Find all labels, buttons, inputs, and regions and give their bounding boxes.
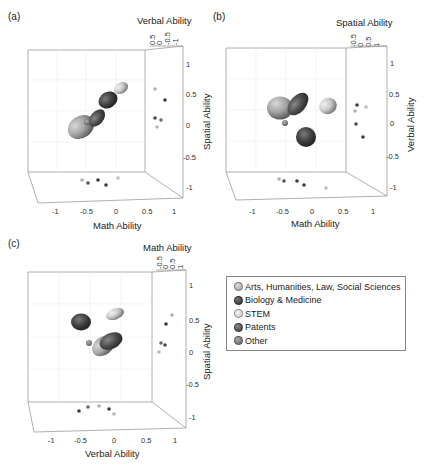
svg-text:0.5: 0.5 <box>389 90 399 99</box>
panel-label: (c) <box>8 238 20 249</box>
legend-item-patents: Patents <box>234 321 405 335</box>
projection-points-side <box>157 313 174 354</box>
svg-text:0.5: 0.5 <box>186 90 196 99</box>
svg-text:1: 1 <box>189 281 193 290</box>
panel-label: (a) <box>8 11 20 22</box>
figure: (a) Verbal Ability 0.5 0 -0.5 -1 1 0.5 0… <box>0 0 424 467</box>
svg-text:1: 1 <box>176 265 185 269</box>
ellipsoids <box>71 306 126 361</box>
svg-text:0.5: 0.5 <box>142 207 152 216</box>
top-axis-title: Verbal Ability <box>137 15 192 26</box>
panel-c: (c) Math Ability -0.5 0 0.5 1 1 0.5 0 -0… <box>8 238 212 459</box>
svg-text:-0.5: -0.5 <box>80 207 93 216</box>
svg-text:0: 0 <box>186 121 190 130</box>
projection-points-floor <box>77 404 116 416</box>
projection-points-floor <box>80 176 120 187</box>
svg-text:-0.5: -0.5 <box>276 207 289 216</box>
ellipsoid-stem <box>104 306 126 323</box>
svg-text:1: 1 <box>390 59 394 68</box>
ellipsoid-patents <box>296 127 316 147</box>
arts-swatch-icon <box>234 282 243 291</box>
stem-swatch-icon <box>234 309 243 318</box>
legend-item-stem: STEM <box>234 307 405 321</box>
right-axis-ticks: 1 0.5 0 -0.5 -1 <box>386 59 399 192</box>
ellipsoids <box>63 79 130 144</box>
panel-b: (b) Spatial Ability -0.5 0 0.5 1 1 0.5 0… <box>213 11 416 229</box>
top-axis-ticks: -0.5 0 0.5 1 <box>155 256 185 269</box>
legend-label: Arts, Humanities, Law, Social Sciences <box>245 282 401 292</box>
ellipsoid-other <box>84 119 90 125</box>
svg-text:1: 1 <box>173 436 177 445</box>
other-swatch-icon <box>234 336 243 345</box>
svg-text:0.5: 0.5 <box>338 207 348 216</box>
bottom-axis-title: Math Ability <box>93 220 142 231</box>
svg-text:0: 0 <box>189 348 193 357</box>
legend: Arts, Humanities, Law, Social Sciences B… <box>226 276 406 351</box>
svg-text:-1: -1 <box>52 207 59 216</box>
projection-points-side <box>153 87 167 129</box>
legend-item-arts: Arts, Humanities, Law, Social Sciences <box>234 280 405 294</box>
projection-points-floor <box>277 177 328 190</box>
right-axis-title: Verbal Ability <box>405 97 416 152</box>
top-axis-ticks: 0.5 0 -0.5 -1 <box>148 32 180 45</box>
patents-swatch-icon <box>234 323 243 332</box>
svg-text:-0.5: -0.5 <box>186 380 199 389</box>
svg-text:-1: -1 <box>171 38 180 45</box>
svg-text:0: 0 <box>310 207 314 216</box>
svg-text:-0.5: -0.5 <box>74 436 87 445</box>
svg-text:0: 0 <box>112 436 116 445</box>
svg-text:0: 0 <box>390 119 394 128</box>
ellipsoid-biology <box>71 314 91 331</box>
legend-label: Biology & Medicine <box>245 295 322 305</box>
bottom-axis-ticks: -1 -0.5 0 0.5 1 <box>249 207 375 216</box>
bottom-axis-ticks: -1 -0.5 0 0.5 1 <box>52 207 176 216</box>
right-axis-title: Spatial Ability <box>201 93 212 150</box>
svg-text:-1: -1 <box>189 413 196 422</box>
right-axis-ticks: 1 0.5 0 -0.5 -1 <box>183 60 196 192</box>
grid <box>28 272 152 402</box>
svg-text:-1: -1 <box>186 183 193 192</box>
panel-label: (b) <box>213 11 225 22</box>
top-axis-title: Math Ability <box>143 242 192 253</box>
legend-item-other: Other <box>234 334 405 348</box>
svg-text:-0.5: -0.5 <box>386 152 399 161</box>
ellipsoids <box>267 89 340 147</box>
legend-label: STEM <box>245 309 270 319</box>
top-axis-title: Spatial Ability <box>336 17 393 28</box>
svg-text:0.5: 0.5 <box>189 316 199 325</box>
svg-text:1: 1 <box>371 207 375 216</box>
right-axis-title: Spatial Ability <box>201 323 212 380</box>
svg-text:-1: -1 <box>249 207 256 216</box>
projection-points-side <box>353 103 368 139</box>
ellipsoid-other <box>282 120 288 126</box>
svg-text:-1: -1 <box>48 436 55 445</box>
bottom-axis-ticks: -1 -0.5 0 0.5 1 <box>48 436 177 445</box>
svg-text:1: 1 <box>186 60 190 69</box>
grid <box>28 50 145 172</box>
legend-label: Patents <box>245 322 276 332</box>
svg-text:0.5: 0.5 <box>141 436 151 445</box>
ellipsoid-stem <box>316 95 339 117</box>
bottom-axis-title: Math Ability <box>291 218 340 229</box>
axis-box <box>226 46 387 200</box>
top-axis-ticks: -0.5 0 0.5 1 <box>349 34 381 47</box>
svg-text:0: 0 <box>114 207 118 216</box>
legend-item-biology: Biology & Medicine <box>234 294 405 308</box>
panel-a: (a) Verbal Ability 0.5 0 -0.5 -1 1 0.5 0… <box>8 11 212 231</box>
biology-swatch-icon <box>234 296 243 305</box>
right-axis-ticks: 1 0.5 0 -0.5 -1 <box>186 281 199 422</box>
axis-box <box>28 46 183 203</box>
svg-text:-1: -1 <box>390 183 397 192</box>
bottom-axis-title: Verbal Ability <box>85 448 140 459</box>
figure-canvas: (a) Verbal Ability 0.5 0 -0.5 -1 1 0.5 0… <box>0 0 424 467</box>
ellipsoid-other <box>86 340 92 346</box>
legend-label: Other <box>245 336 268 346</box>
svg-text:-0.5: -0.5 <box>183 153 196 162</box>
svg-text:1: 1 <box>172 207 176 216</box>
